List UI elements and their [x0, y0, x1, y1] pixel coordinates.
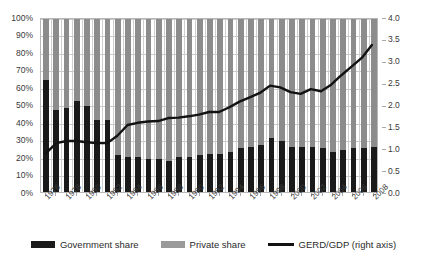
y-axis-right-tick [382, 40, 386, 41]
y-axis-left-tick-label: 10% [16, 171, 33, 180]
y-axis-left-tick-label: 100% [11, 14, 33, 23]
y-axis-right-tick-label: 3.5 [388, 35, 400, 44]
y-axis-right-tick-label: 0.0 [388, 189, 400, 198]
legend-item: GERD/GDP (right axis) [268, 239, 396, 250]
y-axis-right-tick [382, 106, 386, 107]
y-axis-right-tick [382, 84, 386, 85]
y-axis-right-tick-label: 0.5 [388, 167, 400, 176]
y-axis-right-tick-label: 4.0 [388, 14, 400, 23]
y-axis-left-tick-label: 40% [16, 119, 33, 128]
y-axis-right-tick [382, 149, 386, 150]
y-axis-left-tick-label: 70% [16, 66, 33, 75]
chart-legend: Government sharePrivate shareGERD/GDP (r… [0, 234, 427, 254]
legend-label: Government share [60, 239, 139, 250]
y-axis-left-tick-label: 0% [21, 189, 33, 198]
y-axis-right-tick-label: 1.0 [388, 145, 400, 154]
x-axis: 1976197819801982198419861988199019921994… [40, 193, 378, 233]
y-axis-left-tick-label: 20% [16, 154, 33, 163]
y-axis-right: 0.00.51.01.52.02.53.03.54.0 [382, 18, 427, 193]
gerd-gdp-line [41, 19, 377, 192]
gerd-gdp-line-path [46, 45, 372, 153]
y-axis-left-tick-label: 80% [16, 49, 33, 58]
y-axis-right-tick [382, 127, 386, 128]
legend-color-swatch-icon [31, 241, 55, 248]
y-axis-left-tick-label: 50% [16, 101, 33, 110]
y-axis-left: 0%10%20%30%40%50%60%70%80%90%100% [0, 18, 36, 193]
legend-color-swatch-icon [161, 241, 185, 248]
plot-area [40, 18, 378, 193]
y-axis-left-tick-label: 30% [16, 136, 33, 145]
y-axis-right-tick [382, 171, 386, 172]
y-axis-right-tick-label: 3.0 [388, 57, 400, 66]
legend-label: GERD/GDP (right axis) [299, 239, 396, 250]
y-axis-right-tick-label: 1.5 [388, 123, 400, 132]
y-axis-left-tick-label: 60% [16, 84, 33, 93]
y-axis-right-tick-label: 2.0 [388, 101, 400, 110]
y-axis-right-tick [382, 62, 386, 63]
y-axis-right-tick-label: 2.5 [388, 79, 400, 88]
y-axis-right-tick [382, 18, 386, 19]
legend-item: Government share [31, 239, 139, 250]
legend-label: Private share [190, 239, 246, 250]
legend-line-swatch-icon [268, 243, 294, 246]
gerd-stacked-bar-line-chart: 0%10%20%30%40%50%60%70%80%90%100% 0.00.5… [0, 0, 427, 262]
y-axis-left-tick-label: 90% [16, 31, 33, 40]
legend-item: Private share [161, 239, 246, 250]
